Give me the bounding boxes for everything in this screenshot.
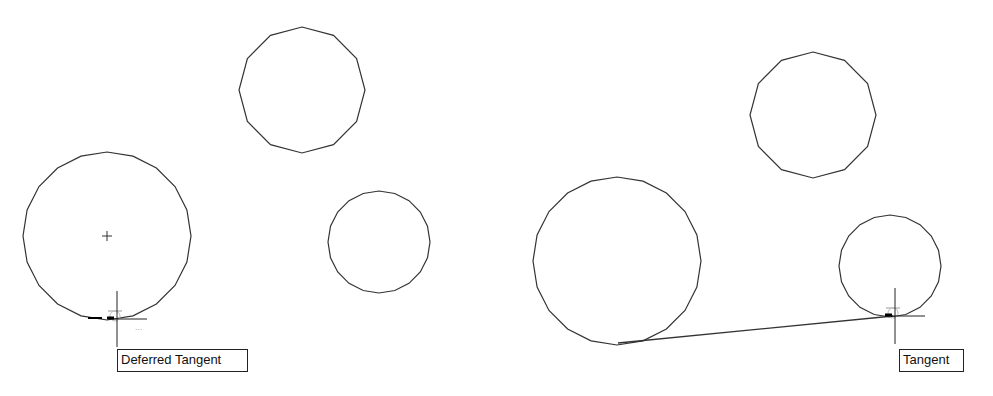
ellipsis-marker-icon: ... [135,322,143,332]
tangent-snap-tooltip: Tangent [899,349,964,372]
left-small-circle[interactable] [328,191,430,293]
right-top-circle[interactable] [750,52,876,178]
drawing-surface[interactable]: ... [0,0,993,396]
left-top-circle[interactable] [239,27,365,153]
snap-tooltip-label: Deferred Tangent [121,352,221,367]
cad-drawing-canvas[interactable]: ... Deferred Tangent Tangent [0,0,993,396]
right-large-circle[interactable] [533,177,701,345]
deferred-tangent-snap-tooltip: Deferred Tangent [117,349,248,372]
snap-tooltip-label: Tangent [903,352,949,367]
right-small-circle[interactable] [839,215,941,317]
tangent-line-rubberband[interactable] [618,316,893,343]
